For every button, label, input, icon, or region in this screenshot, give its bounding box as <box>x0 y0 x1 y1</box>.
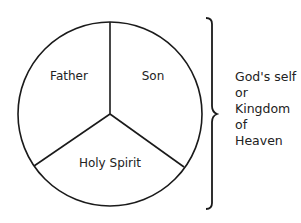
right-brace-icon <box>206 18 217 209</box>
brace-label-line: or <box>235 85 296 101</box>
brace-label: God's self or Kingdom of Heaven <box>235 69 296 149</box>
brace-label-line: of <box>235 117 296 133</box>
brace-label-line: Heaven <box>235 133 296 149</box>
segment-label-holy-spirit: Holy Spirit <box>79 156 141 170</box>
brace-label-line: God's self <box>235 69 296 85</box>
segment-label-father: Father <box>50 69 88 83</box>
brace-label-line: Kingdom <box>235 101 296 117</box>
segment-label-son: Son <box>142 69 165 83</box>
